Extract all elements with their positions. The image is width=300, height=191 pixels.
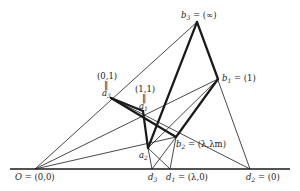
label-b3: b3 = (∞) xyxy=(181,10,217,21)
label-b2: b2 = (λ,λm) xyxy=(176,139,226,150)
line-O-b3 xyxy=(35,22,197,169)
line-b1-a2 xyxy=(148,79,218,148)
line-b1-b2 xyxy=(176,79,218,137)
label-a2: a2 xyxy=(139,150,148,161)
label-b1: b1 = (1) xyxy=(222,73,256,84)
line-a1-d2 xyxy=(111,98,250,169)
projective-diagram: b3 = (∞) b1 = (1) (0,1) ‖ a3 (1,1) ‖ a1 … xyxy=(0,0,300,191)
label-d2: d2 = (0) xyxy=(246,172,280,183)
label-d1: d1 = (λ,0) xyxy=(166,172,208,183)
label-d3: d3 xyxy=(148,172,157,183)
label-a3: a3 xyxy=(102,88,111,99)
line-b3-b1 xyxy=(197,22,218,79)
line-O-b1 xyxy=(35,79,218,169)
label-origin: O = (0,0) xyxy=(15,172,55,182)
label-a1: a1 xyxy=(139,101,148,112)
